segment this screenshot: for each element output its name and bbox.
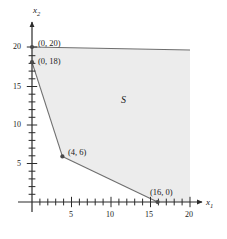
x-tick-label-15: 15 bbox=[145, 211, 153, 219]
region-label-s: S bbox=[121, 95, 126, 105]
y-tick-label-15: 15 bbox=[13, 83, 21, 91]
y-axis-label: x2 bbox=[33, 6, 40, 17]
point-label-0-20: (0, 20) bbox=[38, 39, 61, 48]
x-axis-label-subscript: 1 bbox=[210, 202, 213, 209]
x-tick-label-20: 20 bbox=[185, 211, 193, 219]
region-shading bbox=[32, 47, 190, 202]
vertex-marker-16-0 bbox=[156, 200, 160, 204]
point-label-0-18: (0, 18) bbox=[38, 57, 61, 66]
x-axis-label: x1 bbox=[206, 198, 213, 209]
x-tick-label-10: 10 bbox=[106, 211, 114, 219]
vertex-marker-4-6 bbox=[60, 154, 64, 158]
vertex-marker-0-18 bbox=[30, 60, 34, 64]
y-tick-label-5: 5 bbox=[17, 160, 21, 168]
point-label-16-0: (16, 0) bbox=[150, 188, 173, 197]
y-tick-label-20: 20 bbox=[13, 43, 21, 51]
plot-canvas bbox=[0, 0, 227, 239]
feasible-region-figure: x2 x1 5 10 15 20 5 10 15 20 (0, 20) (0, … bbox=[0, 0, 227, 239]
y-tick-label-10: 10 bbox=[13, 121, 21, 129]
vertex-marker-0-20 bbox=[30, 45, 34, 49]
point-label-4-6: (4, 6) bbox=[68, 148, 86, 157]
x-tick-label-5: 5 bbox=[69, 211, 73, 219]
y-axis-label-subscript: 2 bbox=[37, 10, 40, 17]
